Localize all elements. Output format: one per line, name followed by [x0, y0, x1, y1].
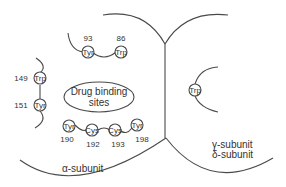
- residue-trp-149: Trp: [34, 72, 46, 84]
- residue-trp-86: Trp: [115, 46, 127, 58]
- drug-binding-label-line1: Drug binding: [71, 86, 128, 97]
- loop-tyr190-tyr198: [75, 125, 132, 133]
- svg-text:Trp: Trp: [34, 74, 46, 83]
- residue-number-151: 151: [14, 101, 28, 110]
- residue-tyr-190: Tyr: [63, 120, 75, 132]
- residue-number-86: 86: [117, 34, 126, 43]
- svg-text:Tyr: Tyr: [131, 121, 142, 130]
- delta-subunit-label: δ-subunit: [212, 149, 253, 160]
- residue-trp-gamma: Trp: [189, 84, 201, 96]
- svg-text:Cys: Cys: [108, 126, 122, 135]
- alpha-subunit-top-outline: [103, 14, 165, 44]
- residue-number-192: 192: [86, 140, 100, 149]
- svg-text:Trp: Trp: [115, 48, 127, 57]
- svg-text:Cys: Cys: [85, 126, 99, 135]
- alpha-subunit-label: α-subunit: [62, 163, 104, 174]
- residue-number-198: 198: [135, 135, 149, 144]
- nicotinic-receptor-diagram: Tyr 93 Trp 86 Trp 149 Tyr 151 Drug bindi…: [0, 0, 286, 187]
- residue-number-93: 93: [84, 34, 93, 43]
- residue-number-149: 149: [14, 74, 28, 83]
- residue-cys-193: Cys: [108, 124, 122, 136]
- residue-tyr-198: Tyr: [131, 119, 143, 131]
- residue-tyr-93: Tyr: [82, 46, 94, 58]
- loop-trp149-tyr151: [35, 58, 43, 128]
- residue-tyr-151: Tyr: [34, 99, 46, 111]
- drug-binding-label-line2: sites: [89, 97, 110, 108]
- residue-number-193: 193: [111, 140, 125, 149]
- residue-cys-192: Cys: [85, 124, 99, 136]
- svg-text:Tyr: Tyr: [82, 48, 93, 57]
- residue-number-190: 190: [60, 135, 74, 144]
- svg-text:Tyr: Tyr: [63, 122, 74, 131]
- gamma-delta-top-outline: [165, 14, 228, 44]
- svg-text:Trp: Trp: [189, 86, 201, 95]
- svg-text:Tyr: Tyr: [34, 101, 45, 110]
